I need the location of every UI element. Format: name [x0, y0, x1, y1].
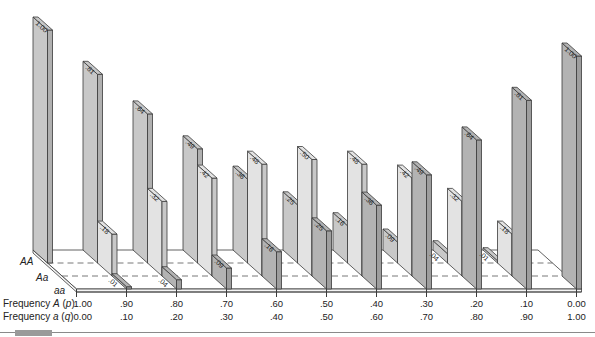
bar-end-face: [577, 56, 582, 289]
bar-face: [512, 87, 527, 289]
bar-aa-7: .49: [412, 162, 432, 289]
bar-face: [248, 151, 263, 276]
tick-label-q: .90: [520, 311, 533, 322]
tick-label-p: .60: [270, 298, 283, 309]
tick-label-q: 1.00: [567, 311, 586, 322]
row-label-Aa: Aa: [36, 272, 48, 283]
tick-label-q: 0.00: [74, 311, 93, 322]
row-label-aa: aa: [54, 285, 65, 296]
tick-label-p: .40: [370, 298, 383, 309]
tick-label-p: .80: [170, 298, 183, 309]
bar-end-face: [527, 100, 532, 289]
axis-label-frequency-q: Frequency a (q): [3, 311, 74, 322]
paren-close: ): [70, 311, 73, 322]
bar-aa-9: .81: [512, 87, 532, 289]
bottom-tab-marker: [15, 330, 52, 336]
tick-label-p: .20: [470, 298, 483, 309]
bottom-divider: [0, 332, 595, 333]
bar-face: [148, 188, 163, 276]
bar-face: [562, 43, 577, 289]
bar-face: [183, 136, 198, 263]
allele-symbol: A: [53, 298, 60, 309]
bar-face: [133, 101, 148, 263]
bar-face: [398, 165, 413, 276]
axis-label-frequency-p: Frequency A (p): [3, 298, 75, 309]
tick-label-q: .80: [470, 311, 483, 322]
x-axis-tick-labels: 1.000.00.90.10.80.20.70.30.60.40.50.50.4…: [74, 298, 586, 322]
row-label-AA: AA: [20, 256, 33, 267]
bar-face: [448, 188, 463, 276]
bar-face: [83, 61, 98, 263]
bar-end-face: [477, 140, 482, 289]
bar-face: [233, 166, 248, 263]
tick-label-q: .50: [320, 311, 333, 322]
tick-label-q: .30: [220, 311, 233, 322]
bar-end-face: [327, 231, 332, 289]
tick-label-q: .60: [370, 311, 383, 322]
bar-face: [198, 165, 213, 276]
paren-close: ): [71, 298, 74, 309]
bar-end-face: [48, 30, 53, 263]
bar-aa-8: .64: [462, 127, 482, 289]
tick-label-q: .10: [120, 311, 133, 322]
tick-label-p: .50: [320, 298, 333, 309]
tick-label-p: .70: [220, 298, 233, 309]
bar-end-face: [227, 268, 232, 289]
bar-face: [298, 147, 313, 277]
genotype-frequency-chart: 1.00.81.18.01.64.32.04.49.42.09.36.48.16…: [0, 0, 595, 337]
bar-face: [33, 17, 48, 263]
axis-label-prefix: Frequency: [3, 311, 53, 322]
bar-face: [348, 151, 363, 276]
bar-end-face: [177, 280, 182, 289]
bar-end-face: [377, 205, 382, 289]
bars: 1.00.81.18.01.64.32.04.49.42.09.36.48.16…: [33, 17, 582, 289]
tick-label-p: 1.00: [74, 298, 93, 309]
axis-label-prefix: Frequency: [3, 298, 53, 309]
tick-label-p: .10: [520, 298, 533, 309]
bar-AA-0: 1.00: [33, 17, 53, 263]
tick-label-p: .90: [120, 298, 133, 309]
bar-end-face: [112, 234, 117, 276]
tick-label-p: .30: [420, 298, 433, 309]
bar-Aa-2: .32: [148, 188, 168, 276]
bar-end-face: [162, 201, 167, 276]
bar-aa-6: .36: [362, 192, 382, 289]
bar-face: [362, 192, 377, 289]
bar-face: [412, 162, 427, 289]
tick-label-q: .40: [270, 311, 283, 322]
bar-end-face: [427, 175, 432, 289]
bar-face: [462, 127, 477, 289]
tick-label-p: 0.00: [567, 298, 586, 309]
bar-end-face: [277, 252, 282, 289]
tick-label-q: .70: [420, 311, 433, 322]
tick-label-q: .20: [170, 311, 183, 322]
bar-aa-5: .25: [312, 218, 332, 289]
bar-aa-10: 1.00: [562, 43, 582, 289]
